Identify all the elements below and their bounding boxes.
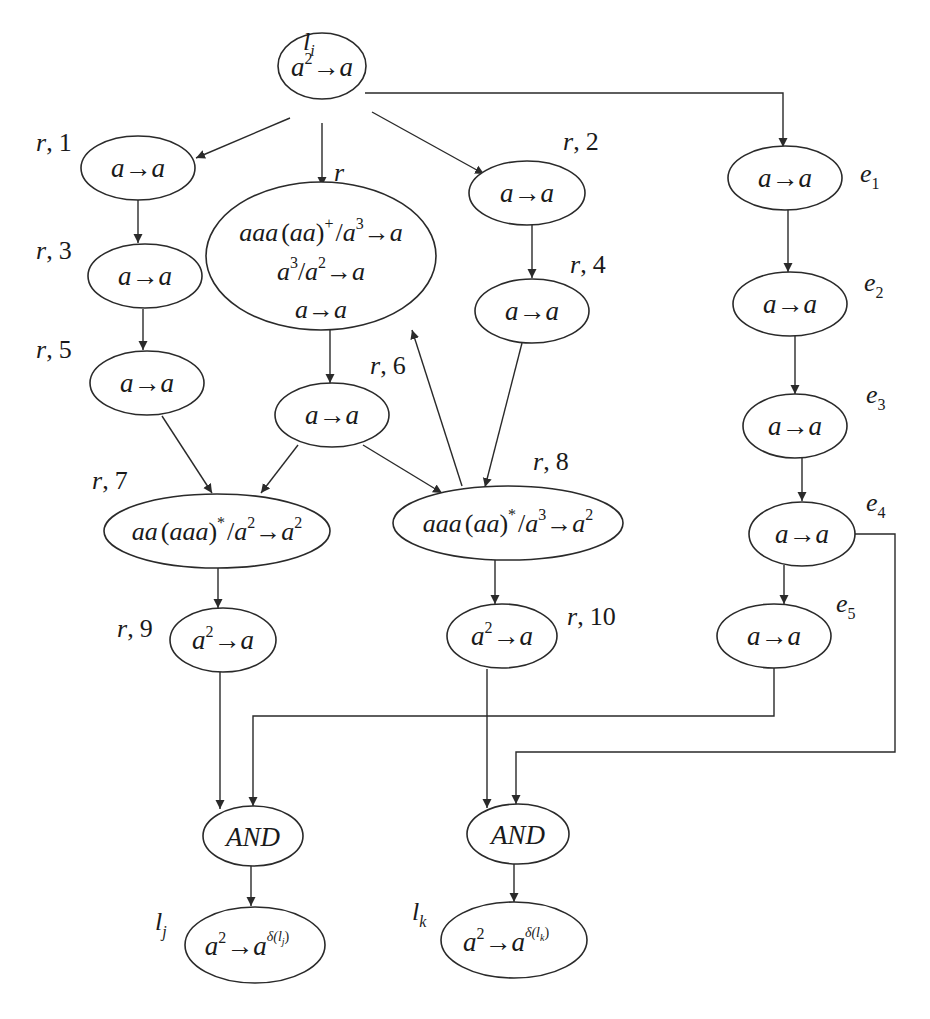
svg-text:a→a: a→a (758, 163, 812, 193)
neuron-r8: aaa(aa)*/a3→a2 r,8 (393, 447, 623, 560)
neuron-e4: a→a e4 (749, 488, 886, 566)
label-r1: r,1 (36, 128, 72, 157)
neuron-e5: a→a e5 (717, 589, 856, 668)
label-r5: r,5 (36, 335, 72, 364)
label-e1: e1 (860, 159, 880, 192)
svg-text:a2→a: a2→a (471, 619, 533, 651)
svg-text:AND: AND (489, 820, 546, 850)
edge-e4-and2 (516, 534, 895, 804)
edge-r4-r8 (485, 343, 522, 487)
neuron-r7: aa(aaa)*/a2→a2 r,7 (92, 466, 330, 568)
neuron-lj: a2→aδ(lj) lj (155, 907, 325, 983)
svg-text:a→a: a→a (111, 153, 165, 183)
svg-text:a→a: a→a (118, 261, 172, 291)
neuron-r9: a2→a r,9 (117, 608, 276, 672)
neuron-r3: a→a r,3 (36, 236, 202, 308)
label-e4: e4 (866, 488, 886, 521)
label-r: r (334, 158, 345, 187)
label-li: li (303, 27, 315, 59)
label-e5: e5 (836, 589, 856, 622)
label-r7: r,7 (92, 466, 128, 495)
neuron-r5: a→a r,5 (36, 335, 204, 415)
label-e2: e2 (864, 268, 884, 301)
svg-text:a→a: a→a (763, 289, 817, 319)
svg-text:a→a: a→a (768, 411, 822, 441)
svg-text:AND: AND (224, 822, 281, 852)
svg-text:a→a: a→a (500, 178, 554, 208)
label-r6: r,6 (370, 351, 406, 380)
label-e3: e3 (866, 380, 886, 413)
neuron-e2: a→a e2 (733, 268, 884, 336)
neuron-r: aaa(aa)+/a3→a a3/a2→a a→a r (206, 158, 436, 330)
neuron-and2: AND (467, 804, 569, 864)
svg-text:aaa(aa)*/a3→a2: aaa(aa)*/a3→a2 (423, 506, 594, 538)
label-lj: lj (155, 907, 167, 941)
neuron-r4: a→a r,4 (475, 250, 606, 343)
neuron-r6: a→a r,6 (275, 351, 406, 447)
edge-li-r1 (196, 118, 290, 158)
neuron-r10: a2→a r,10 (447, 602, 616, 668)
svg-text:a→a: a→a (295, 295, 347, 324)
edge-r6-r7 (261, 445, 298, 493)
svg-text:a→a: a→a (120, 368, 174, 398)
svg-text:aaa(aa)+/a3→a: aaa(aa)+/a3→a (239, 215, 403, 247)
diagram-canvas: a2→a li a→a r,1 aaa(aa)+/a3→a a3/a2→a a→… (0, 0, 930, 1019)
edge-r8-r (412, 330, 462, 486)
label-r3: r,3 (36, 236, 72, 265)
svg-text:a→a: a→a (505, 296, 559, 326)
label-r2: r,2 (563, 127, 599, 156)
label-r8: r,8 (533, 447, 569, 476)
svg-text:a→a: a→a (775, 519, 829, 549)
svg-text:a2→a: a2→a (192, 623, 254, 655)
edge-e5-and1 (253, 668, 774, 806)
label-r4: r,4 (570, 250, 606, 279)
svg-text:aa(aaa)*/a2→a2: aa(aaa)*/a2→a2 (132, 514, 303, 546)
neuron-and1: AND (203, 806, 303, 866)
svg-text:a→a: a→a (305, 400, 359, 430)
svg-text:a→a: a→a (747, 621, 801, 651)
svg-text:a2→a: a2→a (291, 50, 353, 82)
neuron-r1: a→a r,1 (36, 128, 195, 200)
neuron-li: a2→a li (278, 27, 366, 99)
neuron-lk: a2→aδ(lk) lk (412, 897, 587, 978)
label-r9: r,9 (117, 614, 153, 643)
label-lk: lk (412, 897, 427, 930)
edge-r5-r7 (162, 416, 212, 493)
edge-r6-r8 (363, 445, 442, 493)
edge-li-r2 (372, 112, 484, 174)
label-r10: r,10 (567, 602, 616, 631)
neuron-r2: a→a r,2 (469, 127, 599, 225)
neuron-e1: a→a e1 (728, 146, 880, 210)
neuron-e3: a→a e3 (743, 380, 886, 458)
module-diagram: a2→a li a→a r,1 aaa(aa)+/a3→a a3/a2→a a→… (0, 0, 930, 1019)
